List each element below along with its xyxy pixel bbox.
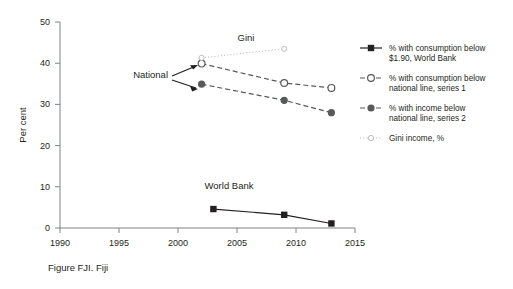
y-tick-label-10: 10 xyxy=(40,182,50,192)
series-line xyxy=(213,209,331,223)
legend-item-1[interactable]: % with consumption below$1.90, World Ban… xyxy=(360,44,486,63)
series-line xyxy=(202,49,285,58)
data-point-1-2 xyxy=(281,212,287,218)
national-arrows xyxy=(172,65,198,92)
x-tick-label-2015: 2015 xyxy=(345,238,365,248)
data-point-1-3 xyxy=(328,220,334,226)
data-point-legend-1 xyxy=(368,45,374,51)
series-4 xyxy=(199,46,287,60)
x-axis-ticks: 1990 1995 2000 2005 2010 2015 xyxy=(50,228,365,248)
x-tick-label-2005: 2005 xyxy=(227,238,247,248)
x-tick-label-2000: 2000 xyxy=(168,238,188,248)
data-point-legend-2 xyxy=(368,75,375,82)
series-line xyxy=(202,64,332,88)
legend-label-line1: Gini income, % xyxy=(389,134,444,143)
data-series-layer xyxy=(198,46,335,226)
data-point-2-1 xyxy=(198,60,205,67)
y-axis-ticks: 0 10 20 30 40 50 xyxy=(40,17,60,233)
legend-item-3[interactable]: % with income belownational line, series… xyxy=(360,104,466,123)
data-point-1-1 xyxy=(210,206,216,212)
annotation-gini: Gini xyxy=(238,32,255,43)
legend-label-line1: % with consumption below xyxy=(389,74,486,83)
y-tick-label-40: 40 xyxy=(40,58,50,68)
arrowhead-series1 xyxy=(190,65,198,70)
legend-label-line1: % with income below xyxy=(389,104,466,113)
legend-label-line2: national line, series 1 xyxy=(389,84,466,93)
annotation-world-bank: World Bank xyxy=(205,180,254,191)
data-point-3-1 xyxy=(198,81,205,88)
figure-caption: Figure FJI. Fiji xyxy=(48,262,108,273)
series-line xyxy=(202,84,332,112)
y-tick-label-20: 20 xyxy=(40,141,50,151)
x-tick-label-1995: 1995 xyxy=(109,238,129,248)
series-2 xyxy=(198,60,335,91)
legend-label-line2: $1.90, World Bank xyxy=(389,54,457,63)
data-point-legend-3 xyxy=(367,104,374,111)
annotation-national: National xyxy=(133,69,168,80)
series-1 xyxy=(210,206,334,227)
x-tick-label-1990: 1990 xyxy=(50,238,70,248)
data-point-legend-4 xyxy=(368,135,373,140)
y-tick-label-50: 50 xyxy=(40,17,50,27)
chart-canvas: 0 10 20 30 40 50 1990 1995 2000 2005 201… xyxy=(0,0,513,289)
data-point-2-2 xyxy=(281,80,288,87)
y-tick-label-0: 0 xyxy=(45,223,50,233)
arrow-to-series2 xyxy=(172,80,196,88)
legend-label-line2: national line, series 2 xyxy=(389,114,466,123)
data-point-4-1 xyxy=(199,55,204,60)
y-tick-label-30: 30 xyxy=(40,99,50,109)
legend-item-4[interactable]: Gini income, % xyxy=(360,134,444,143)
chart-legend: % with consumption below$1.90, World Ban… xyxy=(360,44,486,143)
data-point-2-3 xyxy=(328,85,335,92)
legend-label-line1: % with consumption below xyxy=(389,44,486,53)
data-point-4-2 xyxy=(282,46,287,51)
y-axis-title: Per cent xyxy=(17,107,28,143)
legend-item-2[interactable]: % with consumption belownational line, s… xyxy=(360,74,486,93)
data-point-3-2 xyxy=(281,97,288,104)
x-tick-label-2010: 2010 xyxy=(286,238,306,248)
figure-container: 0 10 20 30 40 50 1990 1995 2000 2005 201… xyxy=(0,0,513,289)
data-point-3-3 xyxy=(328,109,335,116)
